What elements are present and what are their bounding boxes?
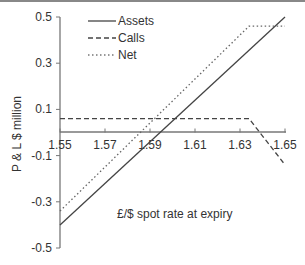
x-axis-title: £/$ spot rate at expiry [117, 207, 232, 221]
series-lines [60, 17, 285, 225]
x-tick-label: 1.55 [48, 138, 72, 152]
y-ticks: 0.50.30.1-0.1-0.3-0.5 [31, 10, 60, 255]
legend-label-net: Net [118, 48, 137, 62]
legend-label-calls: Calls [118, 31, 145, 45]
y-tick-label: 0.3 [35, 56, 52, 70]
x-tick-label: 1.63 [228, 138, 252, 152]
legend-label-assets: Assets [118, 14, 154, 28]
y-tick-label: 0.5 [35, 10, 52, 24]
y-axis-title: P & L $ million [10, 96, 24, 172]
y-tick-label: 0.1 [35, 102, 52, 116]
legend: Assets Calls Net [88, 14, 154, 62]
x-tick-label: 1.65 [273, 138, 297, 152]
x-tick-label: 1.61 [183, 138, 207, 152]
payoff-chart: 0.50.30.1-0.1-0.3-0.5 1.551.571.591.611.… [0, 0, 305, 265]
x-tick-label: 1.57 [93, 138, 117, 152]
y-tick-label: -0.5 [31, 241, 52, 255]
y-tick-label: -0.3 [31, 195, 52, 209]
